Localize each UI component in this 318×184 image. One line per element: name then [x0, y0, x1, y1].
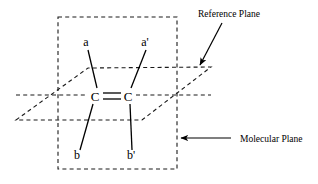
substituent-label-b-prime: b' [127, 148, 135, 162]
chemical-structure-diagram: C C a a' b b' Reference Plane Molecular … [0, 0, 318, 184]
figure-container: C C a a' b b' Reference Plane Molecular … [0, 0, 318, 184]
carbon-left-label: C [91, 89, 100, 104]
substituent-label-a: a [83, 35, 89, 49]
carbon-right-label: C [124, 89, 133, 104]
reference-plane-annotation-label: Reference Plane [198, 9, 260, 19]
substituent-label-b: b [74, 148, 80, 162]
bond-a-prime [131, 50, 146, 88]
substituent-label-a-prime: a' [141, 35, 149, 49]
bond-a [88, 50, 97, 88]
bond-b [80, 104, 93, 150]
molecular-plane-annotation-label: Molecular Plane [240, 134, 303, 144]
bond-b-prime [130, 104, 132, 150]
reference-plane-arrow [200, 23, 222, 65]
